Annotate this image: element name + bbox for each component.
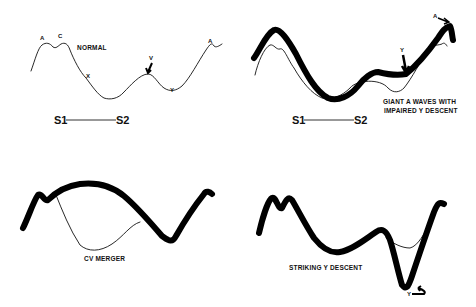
- s2-label: S2: [116, 114, 129, 126]
- panel-normal: A C NORMAL X V Y A S1 S2: [31, 33, 222, 126]
- label-a2: A: [208, 38, 213, 44]
- label-x: X: [86, 73, 90, 79]
- cv-merger-waveform: [23, 184, 212, 241]
- v-arrow-icon: [146, 63, 152, 73]
- s2-label: S2: [354, 114, 367, 126]
- label-y: Y: [407, 291, 411, 297]
- jugular-venous-pulse-diagram: A C NORMAL X V Y A S1 S2 Y A GIANT A WAV…: [0, 0, 476, 307]
- normal-waveform: [31, 43, 222, 99]
- label-a: A: [40, 35, 45, 41]
- a-arrow-icon: [438, 18, 449, 24]
- label-c: C: [58, 33, 63, 39]
- panel-striking-y-descent: STRIKING Y DESCENT Y: [259, 198, 444, 297]
- caption-line2: IMPAIRED Y DESCENT: [384, 107, 458, 114]
- caption: STRIKING Y DESCENT: [289, 264, 362, 271]
- caption: CV MERGER: [84, 255, 125, 262]
- label-v: V: [149, 55, 153, 61]
- giant-a-waveform: [254, 26, 453, 99]
- striking-y-waveform: [259, 198, 444, 288]
- reference-waveform: [56, 195, 140, 250]
- s1-label: S1: [54, 114, 67, 126]
- y-arrow-icon: [402, 55, 409, 73]
- panel-giant-a-waves: Y A GIANT A WAVES WITH IMPAIRED Y DESCEN…: [254, 13, 458, 126]
- panel-title-normal: NORMAL: [77, 44, 107, 51]
- label-y: Y: [400, 47, 404, 53]
- caption-line1: GIANT A WAVES WITH: [383, 98, 456, 105]
- panel-cv-merger: CV MERGER: [23, 184, 212, 263]
- label-y: Y: [170, 87, 174, 93]
- y-curved-arrow-icon: [412, 286, 425, 294]
- label-a: A: [433, 13, 438, 19]
- s1-label: S1: [292, 114, 305, 126]
